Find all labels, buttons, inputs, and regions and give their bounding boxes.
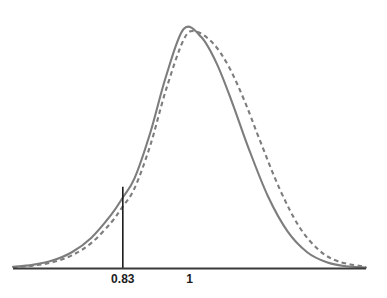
x-tick-label-1: 1 — [186, 272, 193, 286]
x-tick-label-083: 0.83 — [111, 272, 134, 286]
solid-normal-curve — [13, 27, 366, 268]
normal-distribution-chart: 0.83 1 — [0, 0, 387, 298]
dashed-normal-curve — [13, 31, 366, 267]
chart-plot-area — [0, 0, 387, 298]
